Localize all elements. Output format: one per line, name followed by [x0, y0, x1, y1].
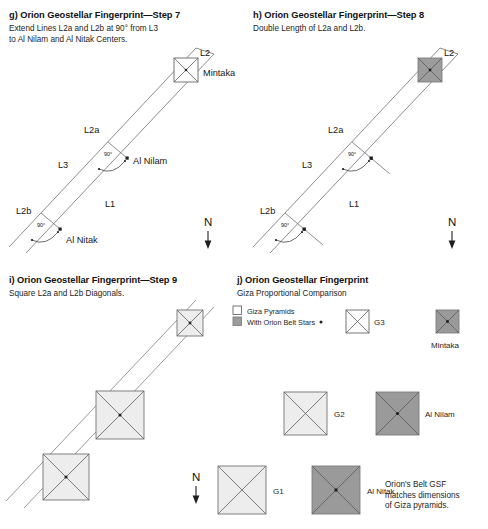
line-l3: [9, 48, 196, 247]
label-l1-h: L1: [349, 199, 359, 209]
panel-j-caption: Orion's Belt GSF matches dimensions of G…: [385, 480, 485, 512]
line-l1-h: [270, 54, 458, 253]
label-l3: L3: [58, 160, 68, 170]
star-square-mintaka-h: [418, 58, 442, 82]
line-l3-h: [253, 48, 440, 247]
star-square-mintaka: [174, 58, 198, 82]
star-square-al-nilam-j: [376, 392, 419, 435]
panel-i-diagram: N: [0, 265, 230, 529]
star-point-al-nitak: [59, 228, 62, 231]
line-l1: [26, 54, 214, 253]
label-l2a: L2a: [84, 125, 100, 135]
panel-h-title: h) Orion Geostellar Fingerprint—Step 8: [244, 0, 488, 21]
label-al-nitak: Al Nitak: [66, 235, 98, 245]
panel-j-subtitle: Giza Proportional Comparison: [228, 286, 488, 300]
angle-label-al-nitak: 90°: [37, 222, 45, 228]
label-l2b: L2b: [16, 206, 31, 216]
angle-marker-al-nitak: [31, 231, 59, 242]
panel-h-subtitle: Double Length of L2a and L2b.: [244, 21, 488, 35]
angle-marker-al-nitak-h: [275, 231, 303, 242]
panel-g-title: g) Orion Geostellar Fingerprint—Step 7: [0, 0, 244, 21]
legend-label-orion: With Orion Belt Stars: [247, 318, 315, 327]
star-point-al-nilam-h: [370, 157, 373, 160]
star-point-al-nilam: [126, 157, 129, 160]
compass-north-h: N: [448, 216, 456, 249]
angle-marker-al-nilam: [98, 160, 126, 171]
label-g1: G1: [273, 487, 284, 496]
label-mintaka-j: Mintaka: [431, 341, 460, 350]
line-l2: [196, 48, 214, 54]
square-al-nilam-i: [96, 391, 144, 439]
line-l3-i: [6, 300, 196, 501]
line-l2b-doubled: [285, 213, 323, 245]
line-l1-i: [24, 307, 214, 508]
label-g2: G2: [334, 410, 345, 419]
label-l2-h: L2: [444, 48, 454, 58]
line-l2a-doubled: [352, 142, 390, 174]
angle-label-al-nilam-h: 90°: [348, 151, 356, 157]
label-al-nilam: Al Nilam: [133, 156, 168, 166]
label-al-nilam-j: Al Nilam: [425, 410, 455, 419]
square-mintaka-i: [177, 310, 203, 336]
label-g3: G3: [374, 318, 385, 327]
compass-north-i: N: [192, 471, 200, 504]
panel-step-8: h) Orion Geostellar Fingerprint—Step 8 D…: [244, 0, 488, 265]
line-l2b: [41, 213, 60, 229]
label-l2: L2: [200, 48, 210, 58]
compass-north-g: N: [204, 216, 212, 249]
legend-label-giza: Giza Pyramids: [247, 307, 295, 316]
pyramid-square-g2: [284, 392, 327, 435]
angle-marker-al-nilam-h: [342, 160, 370, 171]
legend-item-orion-belt-stars: With Orion Belt Stars: [233, 317, 323, 327]
pyramid-square-g3: [346, 310, 369, 333]
angle-label-al-nitak-h: 90°: [281, 222, 289, 228]
compass-label-i: N: [192, 471, 200, 483]
compass-label-h: N: [448, 216, 456, 228]
legend-item-giza-pyramids: Giza Pyramids: [233, 306, 295, 316]
panel-j-title: j) Orion Geostellar Fingerprint: [228, 265, 488, 286]
compass-label-g: N: [204, 216, 212, 228]
legend-center-dot-icon: [320, 321, 323, 324]
label-l1: L1: [105, 199, 115, 209]
line-l2-h: [440, 48, 458, 54]
panel-i-subtitle: Square L2a and L2b Diagonals.: [0, 286, 230, 300]
panel-g-subtitle: Extend Lines L2a and L2b at 90° from L3 …: [0, 21, 244, 45]
panel-step-9: i) Orion Geostellar Fingerprint—Step 9 S…: [0, 265, 230, 529]
star-square-al-nitak-j: [312, 466, 360, 514]
line-l2a: [108, 142, 127, 158]
panel-h-diagram: 90° 90° L2 L2a L3 L1 L2b N: [244, 0, 488, 265]
panel-step-7: g) Orion Geostellar Fingerprint—Step 7 E…: [0, 0, 244, 265]
angle-label-al-nilam: 90°: [104, 151, 112, 157]
panel-i-title: i) Orion Geostellar Fingerprint—Step 9: [0, 265, 230, 286]
label-l3-h: L3: [302, 160, 312, 170]
label-l2a-h: L2a: [328, 125, 344, 135]
star-square-mintaka-j: [436, 310, 459, 333]
star-point-al-nitak-h: [303, 228, 306, 231]
square-al-nitak-i: [43, 454, 89, 500]
label-l2b-h: L2b: [260, 206, 275, 216]
panel-giza-comparison: j) Orion Geostellar Fingerprint Giza Pro…: [228, 265, 488, 529]
label-mintaka: Mintaka: [203, 68, 236, 78]
